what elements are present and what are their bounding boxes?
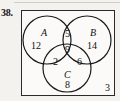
region-count-b-and-c: 6 — [77, 57, 82, 67]
region-count-a-and-b: 5 — [65, 29, 70, 39]
set-label-a: A — [41, 28, 47, 38]
set-label-b: B — [90, 28, 96, 38]
region-count-outside: 3 — [105, 83, 110, 93]
region-count-a-only: 12 — [31, 41, 41, 51]
region-count-c-only: 8 — [65, 80, 70, 90]
venn-diagram-figure: 38. A B C 12 14 8 5 2 6 9 3 — [0, 0, 120, 101]
region-count-b-only: 14 — [87, 41, 97, 51]
problem-number: 38. — [1, 7, 13, 18]
page-rule-divider — [14, 2, 120, 3]
region-count-a-and-b-and-c: 9 — [65, 45, 70, 55]
region-count-a-and-c: 2 — [53, 57, 58, 67]
